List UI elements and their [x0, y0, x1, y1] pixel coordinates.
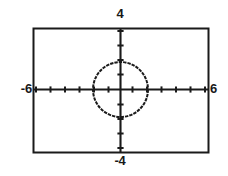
y-min-label: -4	[103, 154, 137, 167]
x-max-label: 6	[210, 82, 226, 95]
x-min-label: -6	[6, 82, 32, 95]
calculator-screen-graphic	[0, 0, 228, 176]
y-max-label: 4	[105, 7, 135, 20]
